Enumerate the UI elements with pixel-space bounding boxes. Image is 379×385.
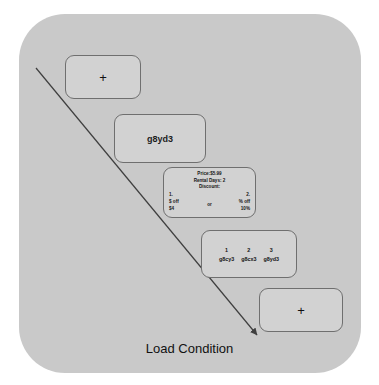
figure-caption: Load Condition (0, 341, 379, 356)
discount-option-1-number: 1. (169, 192, 193, 199)
stimulus-card-fixation-start[interactable]: + (65, 55, 141, 99)
word-stimulus-text: g8yd3 (115, 115, 205, 162)
discount-option-1[interactable]: 1. $ off $4 (169, 192, 193, 212)
code-choice-3-number: 3 (264, 246, 280, 255)
code-choice-2[interactable]: 2 g8cx3 (241, 246, 256, 265)
code-choice-2-code: g8cx3 (241, 255, 256, 264)
discount-option-2-number: 2. (226, 192, 250, 199)
stimulus-card-word[interactable]: g8yd3 (114, 114, 206, 163)
offer-discount-label: Discount: (168, 184, 251, 191)
code-choice-set: 1 g8cy3 2 g8cx3 3 g8yd3 (202, 231, 296, 277)
code-choice-2-number: 2 (241, 246, 256, 255)
code-choice-1-number: 1 (219, 246, 234, 255)
fixation-cross-icon: + (66, 56, 140, 98)
code-choice-1-code: g8cy3 (219, 255, 234, 264)
offer-rental-line: Rental Days: 2 (168, 178, 251, 185)
offer-discount-options: 1. $ off $4 or 2. % off 10% (168, 192, 251, 212)
stimulus-card-offer[interactable]: Price:$5.99 Rental Days: 2 Discount: 1. … (163, 167, 256, 218)
load-condition-figure: + g8yd3 Price:$5.99 Rental Days: 2 Disco… (0, 0, 379, 385)
discount-option-1-value: $4 (169, 206, 193, 213)
code-choice-3-code: g8yd3 (264, 255, 280, 264)
discount-option-2-value: 10% (226, 206, 250, 213)
discount-conjunction: or (207, 196, 212, 209)
code-choice-1[interactable]: 1 g8cy3 (219, 246, 234, 265)
discount-option-1-type: $ off (169, 199, 193, 206)
discount-option-2-type: % off (226, 199, 250, 206)
discount-option-2[interactable]: 2. % off 10% (226, 192, 250, 212)
fixation-cross-icon: + (260, 289, 342, 331)
stimulus-card-choices[interactable]: 1 g8cy3 2 g8cx3 3 g8yd3 (201, 230, 297, 278)
offer-price-line: Price:$5.99 (168, 171, 251, 178)
stimulus-card-fixation-end[interactable]: + (259, 288, 343, 332)
code-choice-3[interactable]: 3 g8yd3 (264, 246, 280, 265)
offer-body: Price:$5.99 Rental Days: 2 Discount: 1. … (164, 168, 255, 217)
